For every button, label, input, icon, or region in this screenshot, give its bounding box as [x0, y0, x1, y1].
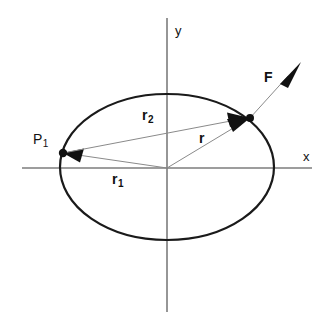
vector-r-label: r [199, 131, 204, 145]
ellipse-vector-diagram: x y P1 r1 r2 r F [0, 0, 329, 329]
diagram-canvas [0, 0, 329, 329]
point-P1-label-base: P [33, 131, 42, 147]
x-axis-label: x [303, 150, 310, 163]
point-P1-marker [59, 149, 67, 157]
point-P1-label: P1 [33, 132, 48, 149]
vector-r1-shaft [78, 155, 167, 168]
vector-r1-label-subscript: 1 [117, 178, 123, 189]
vector-r-label-base: r [199, 130, 204, 146]
vector-F-arrowhead [280, 62, 301, 88]
vector-F-label-base: F [264, 69, 273, 85]
point-P1-label-subscript: 1 [42, 138, 48, 149]
vector-r2-label: r2 [142, 108, 154, 125]
vector-r2-label-subscript: 2 [147, 114, 153, 125]
vector-F-label: F [264, 70, 273, 84]
vector-r1-label: r1 [112, 172, 124, 189]
y-axis-label: y [175, 24, 182, 37]
point-surface-marker [246, 114, 254, 122]
